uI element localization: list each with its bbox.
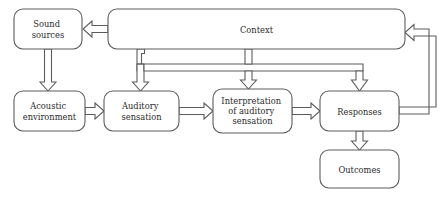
edge-context-center-stem: [245, 49, 252, 64]
diagram-canvas: Sound sources Context Acoustic environme…: [0, 0, 445, 198]
edge-sound-sources-to-acoustic: [40, 49, 56, 91]
edge-context-to-interpretation: [241, 71, 257, 89]
edge-acoustic-to-auditory: [85, 103, 104, 119]
edge-context-to-responses: [352, 71, 368, 91]
node-auditory-sensation-label: Auditory sensation: [121, 101, 162, 122]
node-context[interactable]: Context: [108, 9, 405, 49]
node-acoustic-environment[interactable]: Acoustic environment: [14, 91, 85, 131]
node-sound-sources-label: Sound sources: [32, 19, 64, 40]
node-responses[interactable]: Responses: [320, 91, 399, 131]
edge-context-to-sound-sources: [83, 21, 108, 37]
node-sound-sources[interactable]: Sound sources: [14, 9, 82, 49]
flowchart-svg: Sound sources Context Acoustic environme…: [0, 0, 445, 198]
node-responses-label: Responses: [337, 107, 382, 117]
edge-responses-to-outcomes: [352, 131, 368, 150]
node-auditory-sensation[interactable]: Auditory sensation: [104, 91, 179, 131]
edge-context-bus-horizontal: [137, 64, 363, 71]
edge-interpretation-to-responses: [292, 103, 320, 119]
edge-auditory-to-interpretation: [179, 103, 213, 119]
node-acoustic-environment-label: Acoustic environment: [23, 101, 77, 122]
node-outcomes[interactable]: Outcomes: [320, 150, 399, 188]
node-context-label: Context: [240, 25, 274, 35]
node-outcomes-label: Outcomes: [338, 165, 380, 175]
node-interpretation[interactable]: Interpretation of auditory sensation: [213, 89, 292, 133]
